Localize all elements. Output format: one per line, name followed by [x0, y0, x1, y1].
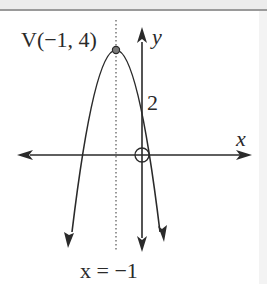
- axis-of-symmetry-label: x = −1: [80, 258, 138, 283]
- y-axis-up-arrow-icon: [137, 27, 147, 43]
- y-axis-label: y: [150, 24, 162, 49]
- y-axis-down-arrow-icon: [137, 236, 147, 252]
- parabola-right-arrow-icon: [158, 225, 167, 242]
- vertex-label: V(−1, 4): [21, 27, 97, 52]
- vertex-point: [112, 46, 119, 53]
- parabola-graph: V(−1, 4) y 2 x x = −1: [0, 0, 267, 284]
- y-tick-label-2: 2: [147, 90, 158, 115]
- parabola-left-arrow-icon: [64, 232, 74, 248]
- x-axis-label: x: [235, 126, 246, 151]
